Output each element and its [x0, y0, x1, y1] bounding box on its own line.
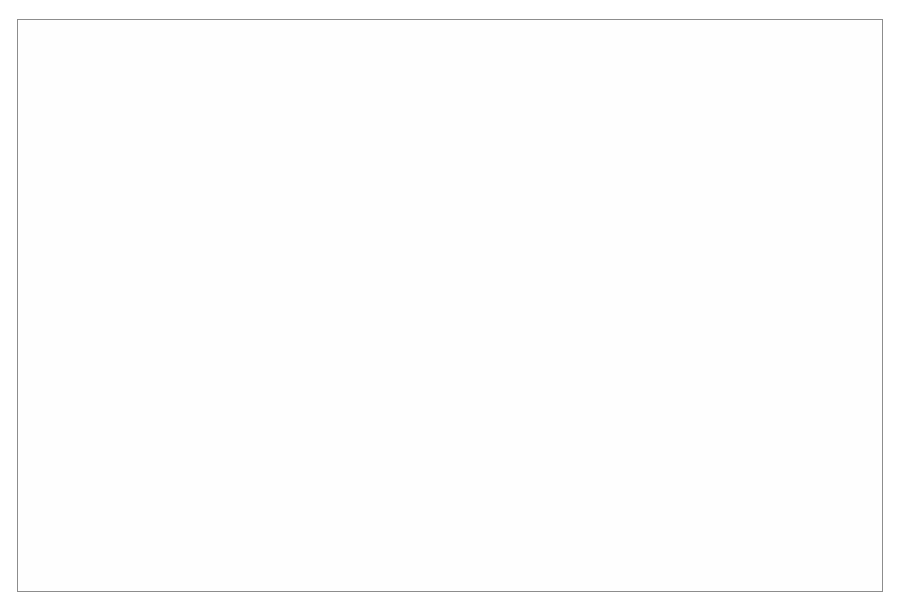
chart-figure: 0100200300400 19301940195019601970198019…: [0, 0, 900, 607]
figure-border: [17, 19, 883, 592]
